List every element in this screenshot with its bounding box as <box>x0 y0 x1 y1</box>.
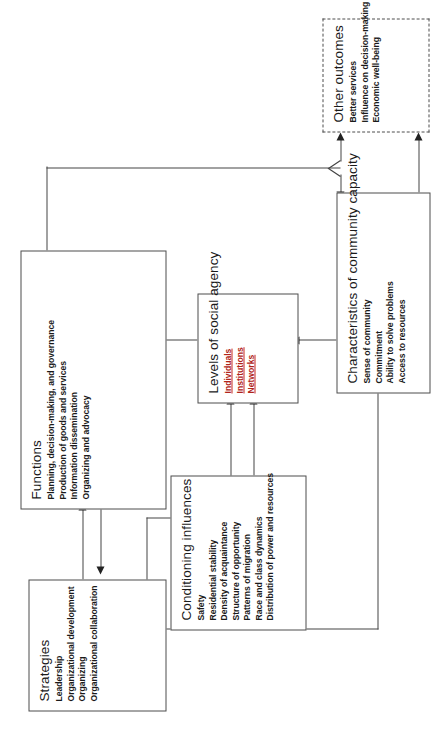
list-item: Organizational collaboration <box>88 589 100 701</box>
list-item: Patterns of migration <box>241 485 253 620</box>
list-item: Organizational development <box>65 589 77 701</box>
connector-conditioning-to-levels <box>253 403 254 475</box>
list-item: Planning, decision-making, and governanc… <box>45 260 57 499</box>
list-item: Organizing <box>76 589 88 701</box>
list-item: Distribution of power and resources <box>264 485 276 620</box>
list-item: Institutions <box>234 303 246 393</box>
box-functions[interactable]: Functions Planning, decision-making, and… <box>20 250 166 509</box>
connector-characteristics-feedback-seg1 <box>377 364 378 629</box>
levels-of-social-agency-title: Levels of social agency <box>205 303 220 393</box>
diagram-canvas: Strategies Leadership Organizational dev… <box>0 0 443 729</box>
list-item: Access to resources <box>396 202 408 383</box>
list-item: Organizing and advocacy <box>80 260 92 499</box>
list-item: Residential stability <box>207 485 219 620</box>
connector-functions-to-outcomes-seg1b <box>46 166 47 250</box>
list-item: Networks <box>245 303 257 393</box>
box-characteristics-of-community-capacity[interactable]: Characteristics of community capacity Se… <box>336 192 430 393</box>
list-item: Race and class dynamics <box>253 485 265 620</box>
rotated-content: Strategies Leadership Organizational dev… <box>0 0 443 729</box>
connector-levels-to-functions <box>162 339 197 340</box>
connector-strategies-to-functions <box>82 509 83 579</box>
connector-conditioning-to-strategies <box>100 503 101 567</box>
list-item: Economic well-being <box>370 28 382 122</box>
list-item: Information dissemination <box>68 260 80 499</box>
list-item: Commitment <box>373 202 385 383</box>
conditioning-influences-list: Safety Residential stability Density of … <box>195 485 276 620</box>
box-conditioning-influences[interactable]: Conditioning influences Safety Residenti… <box>170 475 306 630</box>
box-strategies[interactable]: Strategies Leadership Organizational dev… <box>28 579 166 711</box>
conditioning-influences-title: Conditioning influences <box>178 485 193 620</box>
list-item: Individuals <box>222 303 234 393</box>
arrowhead-outcomes-from-characteristics <box>414 132 422 140</box>
list-item: Influence on decision-making <box>359 28 371 122</box>
arrowhead-outcomes-from-functions <box>336 132 344 140</box>
characteristics-title: Characteristics of community capacity <box>344 202 359 383</box>
list-item: Ability to solve problems <box>384 202 396 383</box>
list-item: Sense of community <box>361 202 373 383</box>
connector-functions-to-outcomes-seg2 <box>46 167 340 168</box>
connector-characteristics-to-outcomes <box>418 139 419 192</box>
box-levels-of-social-agency[interactable]: Levels of social agency Individuals Inst… <box>197 293 298 403</box>
other-outcomes-list: Better services Influence on decision-ma… <box>347 28 382 122</box>
list-item: Density of acquaintance <box>218 485 230 620</box>
levels-of-social-agency-list: Individuals Institutions Networks <box>222 303 257 393</box>
other-outcomes-title: Other outcomes <box>330 28 345 122</box>
strategies-list: Leadership Organizational development Or… <box>53 589 99 701</box>
list-item: Safety <box>195 485 207 620</box>
wire-hop <box>326 154 342 178</box>
functions-list: Planning, decision-making, and governanc… <box>45 260 91 499</box>
arrowhead-strategies <box>96 566 104 574</box>
strategies-title: Strategies <box>36 589 51 701</box>
box-other-outcomes[interactable]: Other outcomes Better services Influence… <box>322 18 429 132</box>
functions-title: Functions <box>28 260 43 499</box>
connector-characteristics-to-levels <box>298 339 336 340</box>
characteristics-list: Sense of community Commitment Ability to… <box>361 202 407 383</box>
connector-strategies-to-levels-seg1 <box>146 517 147 579</box>
list-item: Production of goods and services <box>57 260 69 499</box>
list-item: Leadership <box>53 589 65 701</box>
list-item: Better services <box>347 28 359 122</box>
list-item: Structure of opportunity <box>230 485 242 620</box>
